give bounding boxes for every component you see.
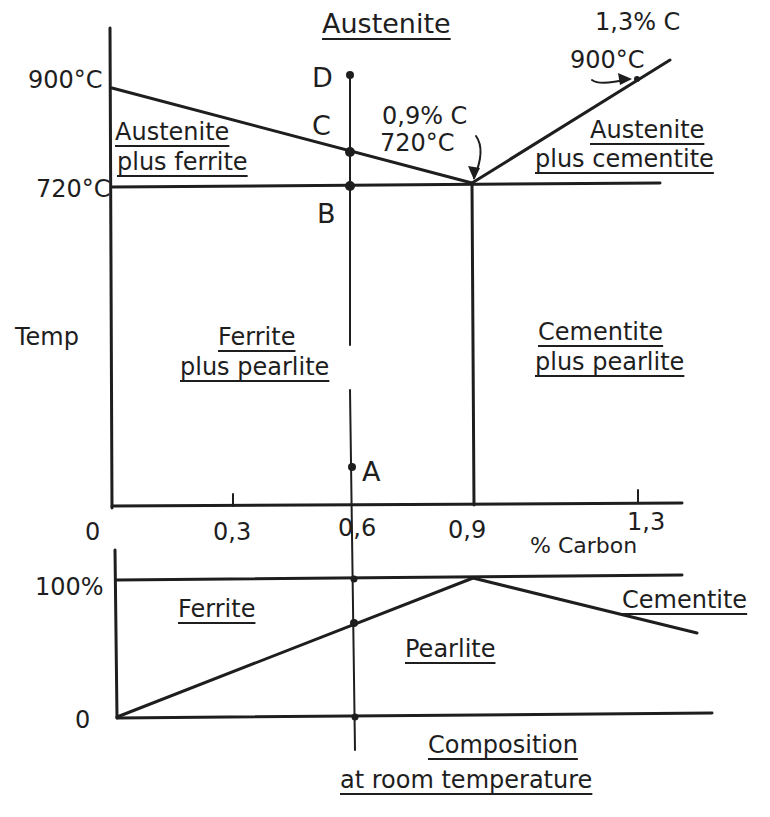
- region-austenite-ferrite-line2: plus ferrite: [117, 150, 248, 174]
- y-tick-720: 720°C: [36, 177, 111, 201]
- region-ferrite-pearlite-line2: plus pearlite: [180, 355, 329, 379]
- x-axis-label: % Carbon: [530, 535, 637, 557]
- point-label-d: D: [312, 64, 333, 91]
- x-tick-0: 0: [85, 520, 100, 544]
- region-cementite-pearlite-line1: Cementite: [538, 320, 663, 344]
- y-tick-900: 900°C: [28, 68, 103, 92]
- phase-ferrite: Ferrite: [178, 597, 255, 621]
- bottom-y-tick-0: 0: [75, 708, 90, 732]
- x-tick-0-6: 0,6: [338, 516, 376, 540]
- region-cementite-pearlite-line2: plus pearlite: [535, 350, 684, 374]
- region-austenite-ferrite-line1: Austenite: [115, 120, 229, 144]
- region-austenite: Austenite: [322, 10, 451, 37]
- hyper-composition: 1,3% C: [595, 10, 680, 34]
- eutectoid-composition: 0,9% C: [382, 104, 467, 128]
- hyper-temperature: 900°C: [570, 48, 645, 72]
- point-label-b: B: [317, 200, 336, 227]
- x-tick-0-3: 0,3: [213, 520, 251, 544]
- point-label-c: C: [312, 112, 331, 139]
- region-austenite-cementite-line1: Austenite: [590, 118, 704, 142]
- eutectoid-temperature: 720°C: [380, 131, 455, 155]
- phase-cementite: Cementite: [622, 588, 747, 612]
- point-label-a: A: [362, 458, 380, 485]
- bottom-title-line2: at room temperature: [340, 768, 592, 792]
- bottom-y-tick-100: 100%: [35, 575, 104, 599]
- phase-pearlite: Pearlite: [405, 637, 495, 661]
- y-axis-label: Temp: [15, 325, 79, 349]
- x-tick-1-3: 1,3: [627, 510, 665, 534]
- region-austenite-cementite-line2: plus cementite: [535, 147, 714, 171]
- bottom-title-line1: Composition: [428, 733, 578, 757]
- x-tick-0-9: 0,9: [448, 518, 486, 542]
- region-ferrite-pearlite-line1: Ferrite: [218, 325, 295, 349]
